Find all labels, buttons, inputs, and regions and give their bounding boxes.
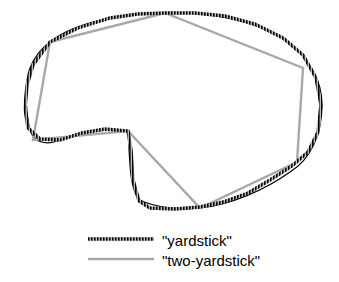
legend-label: "yardstick" xyxy=(162,232,232,249)
legend-label: "two-yardstick" xyxy=(162,252,260,269)
two-yardstick-polygon xyxy=(33,13,303,208)
gray-line-icon xyxy=(88,255,156,263)
hatched-line-icon xyxy=(88,235,156,243)
